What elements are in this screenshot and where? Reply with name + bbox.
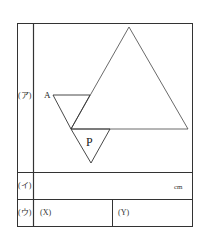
row-label-u: (ウ) <box>18 208 31 218</box>
answer-cell-i[interactable] <box>34 173 192 199</box>
answer-cell-x[interactable]: (X) <box>34 200 112 226</box>
small-triangle-a <box>53 95 90 129</box>
answer-cell-y[interactable]: (Y) <box>113 200 192 226</box>
triangle-p-label: P <box>86 136 93 148</box>
row-label-a: (ア) <box>18 91 31 101</box>
point-a-label: A <box>44 90 51 100</box>
cell-x-label: (X) <box>40 208 51 218</box>
unit-cm: cm <box>174 183 183 191</box>
large-triangle <box>71 27 188 129</box>
answer-sheet: (ア) (イ) (ウ) A P cm (X) (Y) <box>0 0 202 239</box>
row-label-i: (イ) <box>18 181 31 191</box>
cell-y-label: (Y) <box>118 208 129 218</box>
